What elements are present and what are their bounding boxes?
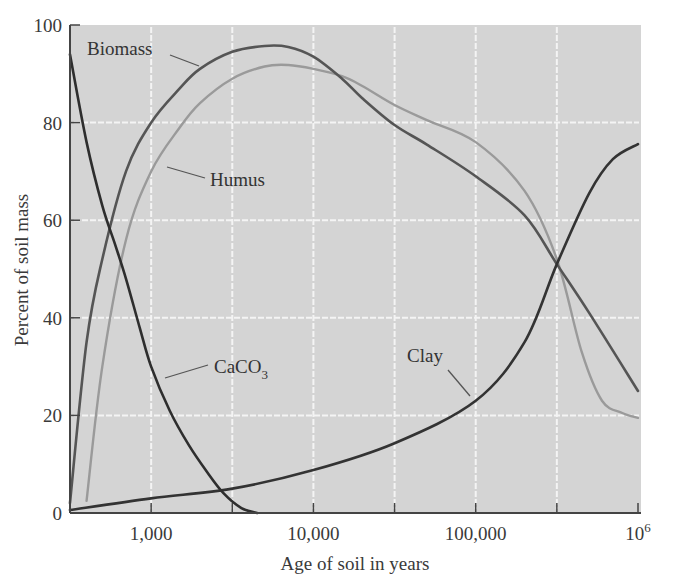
y-axis-title: Percent of soil mass	[11, 194, 32, 347]
x-tick-label: 10,000	[287, 523, 339, 544]
y-tick-label: 100	[34, 15, 63, 36]
x-tick-label: 1,000	[130, 523, 173, 544]
label-humus: Humus	[210, 169, 265, 190]
x-axis-title: Age of soil in years	[281, 553, 430, 574]
x-tick-label: 106	[625, 520, 651, 544]
y-tick-label: 80	[43, 113, 62, 134]
label-clay: Clay	[407, 345, 443, 366]
soil-composition-chart: 0204060801001,00010,000100,000106 Biomas…	[0, 0, 675, 583]
y-tick-label: 40	[43, 308, 62, 329]
label-biomass: Biomass	[87, 38, 152, 59]
y-tick-label: 60	[43, 210, 62, 231]
y-tick-label: 0	[53, 503, 63, 524]
y-tick-label: 20	[43, 405, 62, 426]
x-tick-label: 100,000	[445, 523, 507, 544]
